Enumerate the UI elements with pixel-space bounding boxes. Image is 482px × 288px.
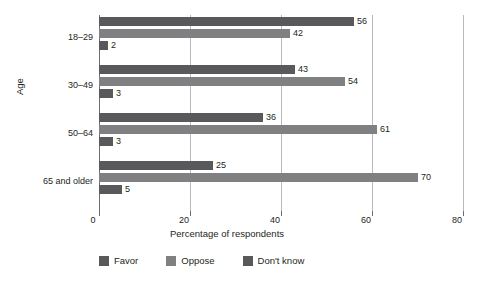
x-axis-title: Percentage of respondents xyxy=(0,228,482,239)
bar-value-oppose-18-29: 42 xyxy=(293,27,303,39)
y-axis-tick-labels: 18–29 30–49 50–64 65 and older xyxy=(0,0,93,288)
y-axis-title: Age xyxy=(14,78,25,95)
bar-dontknow-65-and-older[interactable] xyxy=(99,185,122,194)
plot-area: 56 42 2 43 54 3 xyxy=(99,15,463,211)
x-tick-mark-0 xyxy=(99,211,100,216)
bar-oppose-18-29[interactable] xyxy=(99,29,290,38)
bar-value-favor-30-49: 43 xyxy=(298,63,308,75)
bar-favor-50-64[interactable] xyxy=(99,113,263,122)
legend-item-oppose[interactable]: Oppose xyxy=(166,255,214,266)
bar-oppose-30-49[interactable] xyxy=(99,77,345,86)
x-tick-label-80: 80 xyxy=(452,215,462,226)
bar-value-oppose-50-64: 61 xyxy=(380,123,390,135)
x-tick-mark-80 xyxy=(463,211,464,216)
bar-chart-figure: 18–29 30–49 50–64 65 and older Age 56 42… xyxy=(0,0,482,288)
bar-value-oppose-30-49: 54 xyxy=(348,75,358,87)
bar-oppose-50-64[interactable] xyxy=(99,125,377,134)
bar-dontknow-30-49[interactable] xyxy=(99,89,113,98)
x-tick-mark-40 xyxy=(281,211,282,216)
x-tick-mark-60 xyxy=(372,211,373,216)
bar-favor-30-49[interactable] xyxy=(99,65,295,74)
bar-favor-18-29[interactable] xyxy=(99,17,354,26)
x-axis-title-text: Percentage of respondents xyxy=(170,228,284,239)
y-tick-label-65-and-older: 65 and older xyxy=(43,176,93,187)
bar-dontknow-50-64[interactable] xyxy=(99,137,113,146)
legend: Favor Oppose Don't know xyxy=(99,255,304,266)
legend-swatch-favor-icon xyxy=(99,256,109,266)
y-tick-label-30-49: 30–49 xyxy=(68,80,93,91)
x-tick-mark-20 xyxy=(190,211,191,216)
x-tick-label-0: 0 xyxy=(90,215,95,226)
legend-item-dont-know[interactable]: Don't know xyxy=(243,255,305,266)
bar-value-favor-65-and-older: 25 xyxy=(216,159,226,171)
bar-value-dontknow-18-29: 2 xyxy=(111,39,116,51)
y-tick-label-18-29: 18–29 xyxy=(68,32,93,43)
bar-value-dontknow-30-49: 3 xyxy=(116,87,121,99)
bar-value-oppose-65-and-older: 70 xyxy=(421,171,431,183)
x-tick-label-40: 40 xyxy=(270,215,280,226)
bar-value-dontknow-65-and-older: 5 xyxy=(125,183,130,195)
legend-label-favor: Favor xyxy=(114,255,138,266)
bar-dontknow-18-29[interactable] xyxy=(99,41,108,50)
y-tick-label-50-64: 50–64 xyxy=(68,128,93,139)
bar-oppose-65-and-older[interactable] xyxy=(99,173,418,182)
x-tick-label-20: 20 xyxy=(179,215,189,226)
x-tick-label-60: 60 xyxy=(361,215,371,226)
legend-swatch-oppose-icon xyxy=(166,256,176,266)
legend-item-favor[interactable]: Favor xyxy=(99,255,138,266)
bar-value-dontknow-50-64: 3 xyxy=(116,135,121,147)
bar-value-favor-50-64: 36 xyxy=(266,111,276,123)
bar-favor-65-and-older[interactable] xyxy=(99,161,213,170)
gridline-80 xyxy=(463,15,464,211)
bar-value-favor-18-29: 56 xyxy=(357,15,367,27)
legend-label-oppose: Oppose xyxy=(181,255,214,266)
legend-swatch-dontknow-icon xyxy=(243,256,253,266)
legend-label-dont-know: Don't know xyxy=(258,255,305,266)
